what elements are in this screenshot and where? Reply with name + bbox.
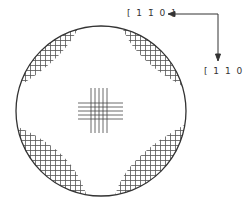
hatch-bottom-right	[112, 124, 246, 208]
hatched-regions	[0, 0, 246, 208]
label-direction-horizontal: [ 1 1̄ 0 ]	[127, 8, 176, 18]
arrow-down-head	[216, 54, 221, 61]
orientation-arrows	[168, 12, 221, 62]
label-direction-vertical: [ 1 1 0 ]	[204, 66, 246, 76]
hatch-top-left	[0, 0, 88, 88]
center-grid	[78, 88, 123, 133]
wafer-diagram	[0, 0, 246, 208]
hatch-bottom-left	[0, 126, 90, 208]
